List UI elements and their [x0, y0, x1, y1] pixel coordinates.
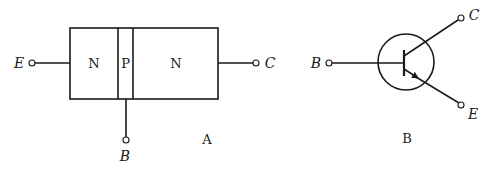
npn-transistor-symbol: B C E B	[310, 7, 480, 146]
collector-label: C	[265, 55, 276, 71]
emitter-arrow-icon	[404, 69, 418, 78]
symbol-emitter-label: E	[467, 106, 478, 122]
diagram-b-caption: B	[402, 131, 412, 146]
base-terminal-icon	[123, 137, 129, 143]
symbol-base-label: B	[310, 55, 321, 71]
transistor-diagram: N P N E C B A B C E B	[0, 0, 486, 170]
symbol-emitter-terminal-icon	[458, 102, 464, 108]
region-n-collector-label: N	[170, 56, 181, 71]
npn-structure-diagram: N P N E C B A	[13, 28, 276, 164]
symbol-base-terminal-icon	[326, 60, 332, 66]
symbol-emitter-lead	[416, 77, 459, 103]
base-label: B	[119, 148, 130, 164]
diagram-a-caption: A	[201, 132, 212, 147]
region-p-base-label: P	[121, 56, 130, 71]
symbol-collector-terminal-icon	[458, 15, 464, 21]
collector-terminal-icon	[253, 60, 259, 66]
emitter-label: E	[13, 55, 24, 71]
region-n-emitter-label: N	[88, 56, 99, 71]
symbol-collector-label: C	[469, 7, 480, 23]
emitter-terminal-icon	[29, 60, 35, 66]
